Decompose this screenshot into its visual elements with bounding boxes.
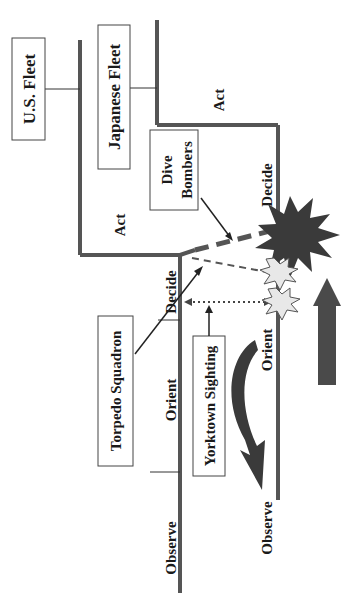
us-act-label: Act: [112, 214, 128, 237]
dive-bombers-callout: Dive Bombers: [150, 130, 233, 241]
japanese-fleet-label: Japanese Fleet: [105, 44, 124, 151]
japanese-act-label: Act: [211, 89, 227, 112]
arrowhead-icon: [205, 305, 213, 313]
us-fleet-label: U.S. Fleet: [20, 53, 39, 124]
torpedo-squadron-label: Torpedo Squadron: [108, 330, 124, 451]
ooda-diagram: U.S. Fleet Japanese Fleet Observe Orient…: [0, 0, 347, 593]
dive-bombers-line2: Bombers: [179, 141, 195, 199]
large-explosion-icon: [255, 196, 340, 278]
us-fleet-timeline: [80, 40, 195, 593]
us-fleet-label-box: U.S. Fleet: [12, 38, 45, 140]
dotted-double-arrow: [184, 298, 272, 306]
japanese-decide-label: Decide: [259, 163, 275, 207]
japanese-orient-label: Orient: [259, 329, 275, 372]
dive-bombers-line1: Dive: [159, 155, 175, 185]
torpedo-squadron-callout: Torpedo Squadron: [98, 266, 203, 466]
us-observe-label: Observe: [163, 521, 179, 575]
yorktown-sighting-label: Yorktown Sighting: [202, 345, 218, 466]
us-orient-label: Orient: [163, 379, 179, 422]
japanese-observe-label: Observe: [259, 501, 275, 555]
torpedo-attack-path: [192, 258, 272, 273]
arrowhead-icon: [194, 266, 203, 276]
japanese-fleet-label-box: Japanese Fleet: [98, 25, 130, 169]
yorktown-sighting-callout: Yorktown Sighting: [193, 305, 225, 476]
big-up-arrow-icon: [313, 278, 341, 385]
